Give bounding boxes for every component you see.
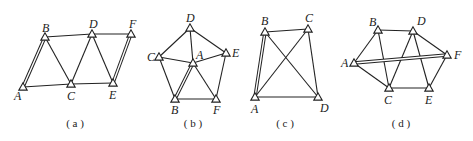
member-EF [429, 55, 447, 88]
member-DE [92, 34, 113, 83]
joint-label: D [185, 11, 195, 25]
joint-label: B [42, 21, 50, 35]
member-BD [378, 30, 413, 31]
joint-label: A [250, 102, 259, 116]
member-BC [45, 37, 71, 84]
member-CB [159, 57, 175, 99]
joint-triangle-icon [222, 49, 230, 56]
member-BC [265, 29, 308, 32]
member-CE [71, 83, 113, 84]
double-member-inner-AB [255, 32, 265, 97]
joint-label: F [453, 48, 462, 62]
joint-label: A [195, 48, 204, 62]
member-AC [23, 84, 71, 87]
member-CA [159, 57, 193, 63]
figure-caption: ( b ) [184, 117, 203, 130]
joint-triangle-icon [304, 25, 312, 32]
double-member-inner-AB [23, 37, 45, 87]
joint-label: C [305, 11, 314, 25]
double-member-inner-AB [175, 63, 193, 99]
joint-label: C [67, 89, 76, 103]
member-AB [354, 30, 378, 63]
figure-d: BDAFCE( d ) [340, 14, 462, 130]
member-AF [193, 63, 216, 99]
member-DF [413, 31, 447, 55]
member-BD [45, 34, 92, 37]
joint-label: D [319, 101, 329, 115]
figure-c: BCAD( c ) [250, 11, 329, 130]
member-CD [71, 34, 92, 84]
member-DE [413, 31, 429, 88]
joint-label: C [384, 93, 393, 107]
joint-label: E [108, 88, 117, 102]
member-AC [354, 63, 389, 88]
joint-label: C [147, 50, 156, 64]
joint-label: F [212, 103, 221, 117]
joint-label: E [231, 46, 240, 60]
figure-a: ABCDEF( a ) [13, 17, 137, 130]
joint-label: A [13, 89, 22, 103]
figure-caption: ( c ) [276, 117, 294, 130]
joint-label: D [416, 14, 426, 28]
joint-label: B [369, 15, 377, 29]
joint-label: D [88, 17, 98, 31]
figure-b: DCAEBF( b ) [147, 11, 240, 130]
figure-caption: ( a ) [66, 117, 84, 130]
member-DA [190, 28, 193, 63]
joint-label: E [424, 93, 433, 107]
joint-label: A [340, 56, 349, 70]
member-EF [216, 53, 226, 99]
double-member-inner-EF [113, 34, 131, 83]
truss-diagrams-canvas: ABCDEF( a ) DCAEBF( b ) BCAD( c ) BDAFCE… [0, 0, 473, 141]
member-DC [159, 28, 190, 57]
joint-label: B [171, 103, 179, 117]
joint-label: B [261, 14, 269, 28]
figure-caption: ( d ) [392, 117, 411, 130]
joint-label: F [128, 17, 137, 31]
